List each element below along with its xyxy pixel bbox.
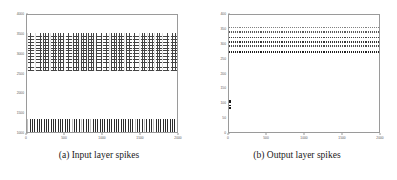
x-tick-mark: [178, 133, 179, 135]
x-tick-mark: [228, 133, 229, 135]
x-tick-label: 1000: [98, 136, 105, 140]
y-tick-label: 1500: [4, 111, 24, 115]
x-tick-mark: [304, 133, 305, 135]
x-tick-label: 1500: [338, 136, 345, 140]
x-tick-mark: [102, 133, 103, 135]
x-tick-mark: [64, 133, 65, 135]
spike-line: [229, 27, 379, 28]
y-tick-label: 50: [206, 116, 226, 120]
x-tick-mark: [140, 133, 141, 135]
x-tick-mark: [26, 133, 27, 135]
y-tick-label: 2500: [4, 72, 24, 76]
y-tick-label: 300: [206, 42, 226, 46]
y-tick-label: 4000: [4, 12, 24, 16]
y-tick-label: 250: [206, 57, 226, 61]
spike-band-upper: [27, 33, 177, 71]
y-tick-label: 3000: [4, 52, 24, 56]
y-tick-label: 400: [206, 12, 226, 16]
x-tick-label: 1500: [136, 136, 143, 140]
raster-plot-input-layer: [26, 14, 178, 133]
spike-band-lower: [27, 119, 177, 132]
panel-output-layer-spikes: 0 50 100 150 200 250 300 350 400: [198, 0, 396, 180]
y-tick-label: 350: [206, 27, 226, 31]
x-tick-label: 500: [263, 136, 269, 140]
spike-line: [229, 41, 379, 43]
panel-b-caption: (b) Output layer spikes: [198, 150, 396, 160]
spike-line: [229, 37, 379, 39]
y-tick-label: 3500: [4, 32, 24, 36]
raster-plot-output-layer: [228, 14, 380, 133]
spike-cluster-low-index: [229, 107, 231, 108]
spike-line: [229, 31, 379, 32]
spike-cluster-low-index: [229, 100, 231, 102]
spike-cluster-low-index: [229, 105, 231, 107]
y-tick-label: 2000: [4, 91, 24, 95]
x-tick-mark: [380, 133, 381, 135]
spike-line: [229, 45, 379, 47]
y-tick-label: 100: [206, 101, 226, 105]
figure-row: 1000 1500 2000 2500 3000 3500 4000 0 500…: [0, 0, 397, 180]
x-tick-label: 0: [25, 136, 27, 140]
y-tick-label: 200: [206, 72, 226, 76]
y-tick-label: 150: [206, 86, 226, 90]
x-tick-label: 2000: [174, 136, 181, 140]
x-tick-label: 1000: [300, 136, 307, 140]
x-tick-label: 500: [61, 136, 67, 140]
x-tick-mark: [266, 133, 267, 135]
y-tick-label: 0: [206, 131, 226, 135]
y-tick-label: 1000: [4, 131, 24, 135]
x-tick-label: 2000: [376, 136, 383, 140]
x-tick-mark: [342, 133, 343, 135]
panel-a-caption: (a) Input layer spikes: [0, 150, 198, 160]
spike-line: [229, 51, 379, 53]
panel-input-layer-spikes: 1000 1500 2000 2500 3000 3500 4000 0 500…: [0, 0, 198, 180]
x-tick-label: 0: [227, 136, 229, 140]
